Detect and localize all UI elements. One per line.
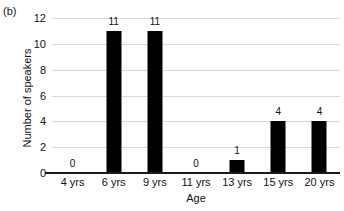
x-axis-title: Age — [52, 192, 340, 205]
x-axis-tick-label: 20 yrs — [291, 176, 344, 189]
bar — [106, 31, 121, 173]
x-axis-line — [45, 172, 340, 174]
bar-value-label: 4 — [299, 107, 339, 117]
bar — [271, 121, 286, 173]
y-axis-tick-label: 10 — [10, 39, 46, 50]
bar-value-label: 11 — [135, 17, 175, 27]
bar — [312, 121, 327, 173]
y-axis-tick-label: 2 — [10, 142, 46, 153]
bar-series: 011110144 — [52, 18, 340, 173]
y-axis-tick-label: 4 — [10, 116, 46, 127]
bar-value-label: 4 — [258, 107, 298, 117]
y-axis-tick-label: 0 — [10, 168, 46, 179]
bar-chart-figure: (b) Number of speakers 024681012 0111101… — [0, 0, 344, 211]
y-axis-tick-label: 12 — [10, 13, 46, 24]
bar-value-label: 1 — [217, 146, 257, 156]
bar-value-label: 11 — [94, 17, 134, 27]
y-axis-tick-label: 6 — [10, 91, 46, 102]
bar — [147, 31, 162, 173]
bar-value-label: 0 — [53, 159, 93, 169]
bar-value-label: 0 — [176, 159, 216, 169]
plot-area: 024681012 011110144 — [52, 18, 340, 173]
y-axis-tick-label: 8 — [10, 65, 46, 76]
